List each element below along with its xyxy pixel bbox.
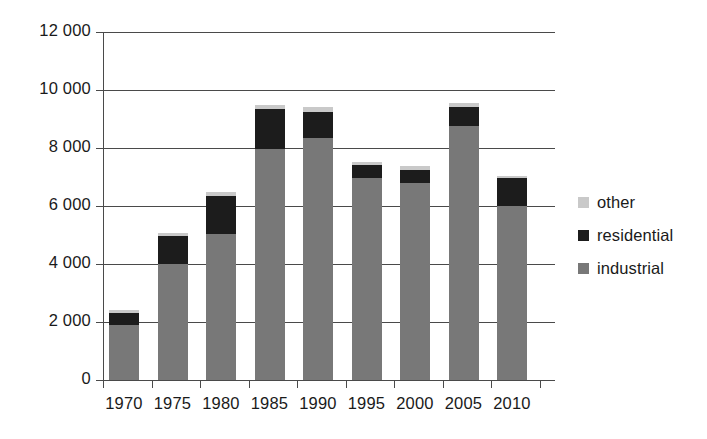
bar-segment-industrial	[449, 126, 479, 380]
bar-segment-industrial	[109, 325, 139, 380]
bar-segment-residential	[303, 112, 333, 138]
x-axis-tick	[443, 380, 444, 388]
legend-swatch-icon	[578, 230, 589, 241]
bar-segment-industrial	[255, 149, 285, 380]
x-axis-tick	[346, 380, 347, 388]
bar-segment-industrial	[158, 264, 188, 380]
gridline	[103, 380, 555, 381]
bar-segment-industrial	[206, 234, 236, 380]
bar-1985	[255, 105, 285, 380]
y-axis-tick	[96, 90, 104, 91]
bar-segment-industrial	[303, 138, 333, 380]
legend-item-residential: residential	[578, 219, 673, 252]
stacked-bar-chart: 02 0004 0006 0008 00010 00012 000 197019…	[0, 0, 707, 439]
y-axis-tick-label: 8 000	[3, 137, 91, 156]
bar-segment-residential	[109, 313, 139, 325]
x-axis-tick	[297, 380, 298, 388]
plot-area	[103, 32, 555, 380]
gridline	[103, 32, 555, 33]
y-axis-tick	[96, 32, 104, 33]
x-axis-tick	[103, 380, 104, 388]
y-axis-tick	[96, 264, 104, 265]
bar-segment-residential	[255, 109, 285, 150]
bar-1995	[352, 162, 382, 380]
y-axis-tick	[96, 322, 104, 323]
bar-segment-residential	[400, 170, 430, 183]
bar-segment-industrial	[497, 206, 527, 380]
x-axis-tick	[491, 380, 492, 388]
bar-1980	[206, 192, 236, 380]
y-axis-tick	[96, 148, 104, 149]
y-axis-tick-label: 10 000	[3, 79, 91, 98]
bar-segment-industrial	[352, 178, 382, 380]
x-axis-tick	[394, 380, 395, 388]
y-axis-tick-label: 0	[3, 369, 91, 388]
legend-item-other: other	[578, 186, 673, 219]
bar-segment-industrial	[400, 183, 430, 380]
gridline	[103, 90, 555, 91]
y-axis-tick-label: 4 000	[3, 253, 91, 272]
x-axis-tick-label: 2010	[482, 394, 542, 413]
x-axis-tick	[152, 380, 153, 388]
legend-item-label: residential	[597, 226, 673, 245]
legend-item-label: other	[597, 193, 635, 212]
y-axis-tick-label: 2 000	[3, 311, 91, 330]
legend-swatch-icon	[578, 197, 589, 208]
bar-2000	[400, 166, 430, 380]
bar-1970	[109, 310, 139, 380]
bar-segment-residential	[158, 236, 188, 264]
legend-swatch-icon	[578, 263, 589, 274]
legend: otherresidentialindustrial	[578, 186, 673, 285]
bar-1990	[303, 107, 333, 380]
bar-segment-residential	[449, 107, 479, 126]
x-axis-tick	[249, 380, 250, 388]
legend-item-label: industrial	[597, 259, 664, 278]
bar-2005	[449, 103, 479, 380]
bar-segment-residential	[352, 165, 382, 178]
legend-item-industrial: industrial	[578, 252, 673, 285]
bar-2010	[497, 176, 527, 380]
x-axis-tick	[200, 380, 201, 388]
bar-1975	[158, 233, 188, 380]
y-axis-tick-label: 12 000	[3, 21, 91, 40]
y-axis-tick-label: 6 000	[3, 195, 91, 214]
bar-segment-residential	[206, 196, 236, 234]
y-axis-tick	[96, 206, 104, 207]
x-axis-tick	[540, 380, 541, 388]
bar-segment-residential	[497, 178, 527, 206]
